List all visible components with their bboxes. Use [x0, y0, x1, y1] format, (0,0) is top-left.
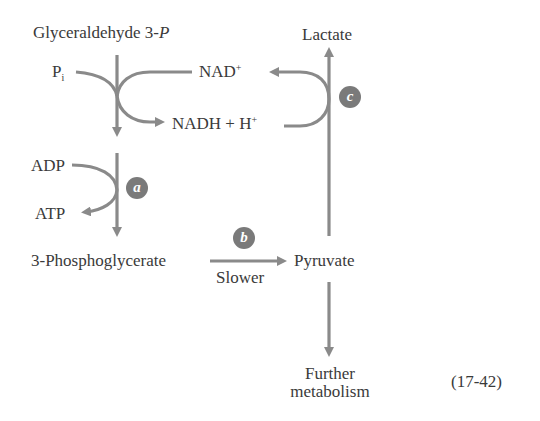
node-pyruvate: Pyruvate [294, 252, 354, 269]
nadh-base: NADH + H [172, 114, 251, 133]
node-further-metabolism: Further metabolism [280, 365, 380, 401]
glyceraldehyde-text: Glyceraldehyde 3- [33, 23, 159, 42]
label-slower: Slower [216, 269, 264, 286]
step-badge-c: c [339, 86, 361, 108]
step-badge-a: a [126, 177, 148, 199]
step-badge-b: b [233, 227, 255, 249]
node-3-phosphoglycerate: 3-Phosphoglycerate [31, 252, 166, 269]
arrow-adp-atp [72, 165, 117, 212]
pi-sub: i [61, 72, 64, 83]
node-pi: Pi [52, 63, 64, 80]
arrow-pi-in [76, 72, 117, 96]
equation-number: (17-42) [451, 373, 502, 390]
glyceraldehyde-p: P [159, 23, 169, 42]
further-line-1: Further [280, 365, 380, 383]
nad-base: NAD [199, 62, 236, 81]
arrow-nad-in [117, 72, 192, 96]
arrow-nadh-out [117, 96, 160, 122]
node-nad-plus: NAD+ [199, 63, 241, 80]
nad-sup: + [236, 62, 242, 73]
nadh-sup: + [251, 114, 257, 125]
node-lactate: Lactate [302, 26, 352, 43]
node-adp: ADP [31, 157, 65, 174]
pathway-arrows [0, 0, 540, 421]
arrow-nadh-nad [274, 72, 329, 126]
node-atp: ATP [35, 205, 65, 222]
node-glyceraldehyde-3p: Glyceraldehyde 3-P [33, 24, 169, 41]
node-nadh: NADH + H+ [172, 115, 257, 132]
further-line-2: metabolism [280, 383, 380, 401]
